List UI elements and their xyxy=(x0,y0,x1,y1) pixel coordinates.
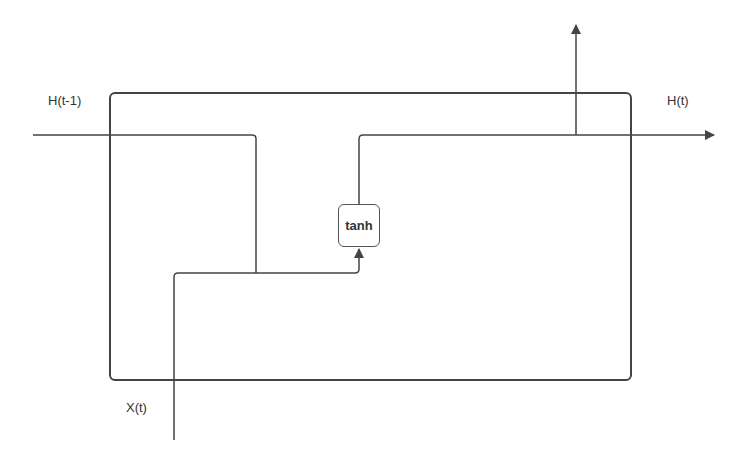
prev-hidden-path xyxy=(33,135,256,273)
tanh-activation-box: tanh xyxy=(338,204,380,247)
input-path xyxy=(174,249,359,440)
prev-hidden-label: H(t-1) xyxy=(48,93,81,108)
input-label: X(t) xyxy=(126,400,147,415)
tanh-label: tanh xyxy=(345,218,372,233)
hidden-output-label: H(t) xyxy=(667,93,689,108)
hidden-output-path xyxy=(359,135,714,204)
